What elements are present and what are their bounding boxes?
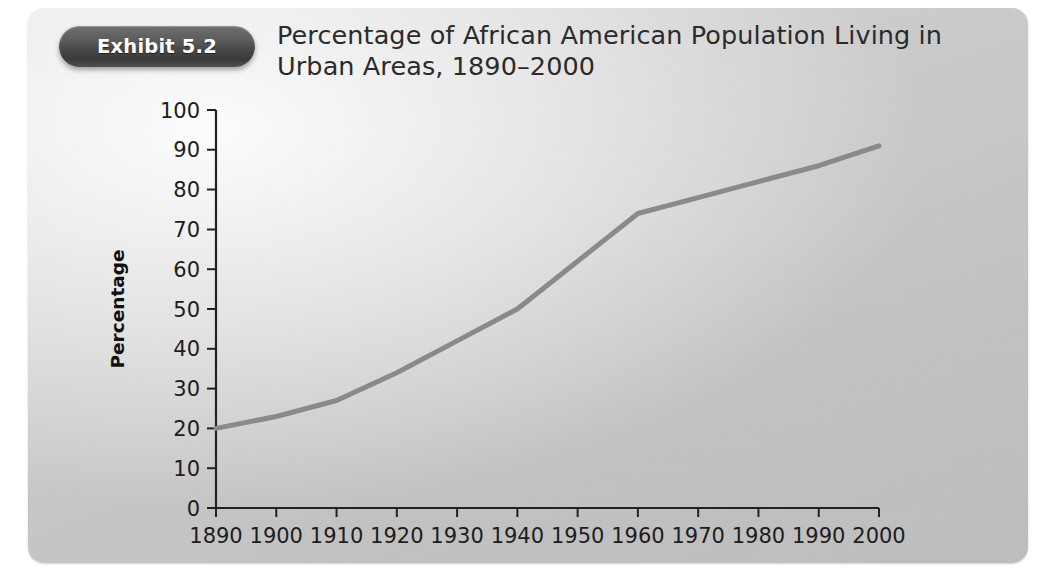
y-tick-label: 80	[173, 178, 200, 202]
y-tick-label: 50	[173, 298, 200, 322]
x-tick-label: 1900	[250, 524, 303, 548]
y-tick-label: 30	[173, 377, 200, 401]
x-tick-label: 1960	[611, 524, 664, 548]
y-tick-label: 20	[173, 417, 200, 441]
x-tick-label: 1990	[792, 524, 845, 548]
x-tick-label: 1970	[671, 524, 724, 548]
y-tick-label: 0	[187, 497, 200, 521]
y-tick-label: 70	[173, 218, 200, 242]
chart-canvas: 0102030405060708090100 18901900191019201…	[28, 8, 1028, 563]
x-axis-tick-marks	[216, 508, 879, 517]
x-tick-label: 1950	[551, 524, 604, 548]
x-tick-label: 1980	[732, 524, 785, 548]
y-tick-label: 60	[173, 258, 200, 282]
exhibit-panel: Exhibit 5.2 Percentage of African Americ…	[28, 8, 1028, 563]
x-axis-tick-labels: 1890190019101920193019401950196019701980…	[189, 524, 905, 548]
data-series-line	[216, 146, 879, 429]
x-tick-label: 1910	[310, 524, 363, 548]
y-axis-title: Percentage	[107, 249, 128, 368]
x-tick-label: 1940	[491, 524, 544, 548]
y-tick-label: 10	[173, 457, 200, 481]
x-tick-label: 2000	[852, 524, 905, 548]
y-axis-tick-marks	[207, 110, 216, 508]
line-chart: 0102030405060708090100 18901900191019201…	[28, 8, 1028, 563]
y-tick-label: 100	[160, 99, 200, 123]
x-tick-label: 1920	[370, 524, 423, 548]
y-tick-label: 90	[173, 138, 200, 162]
x-tick-label: 1890	[189, 524, 242, 548]
y-axis-tick-labels: 0102030405060708090100	[160, 99, 200, 521]
x-tick-label: 1930	[430, 524, 483, 548]
y-tick-label: 40	[173, 337, 200, 361]
